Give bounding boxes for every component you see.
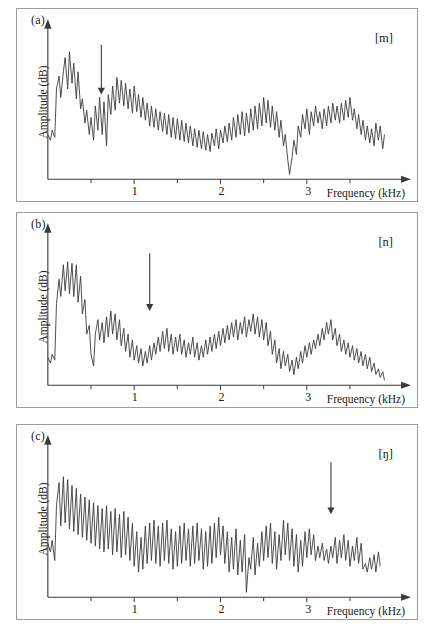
spectrum-plot-c [17,425,417,619]
spectrum-plot-a [17,9,417,201]
x-tick-label: 1 [132,184,138,199]
panel-label-a: (a) [31,13,45,28]
panel-a: (a) [m] Amplitude (dB) Frequency (kHz) 1… [16,8,418,202]
panel-b: (b) [n] Amplitude (dB) Frequency (kHz) 1… [16,212,418,408]
x-tick-label: 2 [219,602,225,617]
x-tick-label: 3 [305,184,311,199]
x-axis-label-b: Frequency (kHz) [327,393,405,405]
x-tick-label: 3 [305,602,311,617]
x-axis-label-a: Frequency (kHz) [327,187,405,199]
panel-label-b: (b) [31,217,46,232]
figure-root: (a) [m] Amplitude (dB) Frequency (kHz) 1… [0,0,434,631]
panel-c: (c) [ŋ] Amplitude (dB) Frequency (kHz) 1… [16,424,418,620]
x-axis-label-c: Frequency (kHz) [327,605,405,617]
x-tick-label: 1 [132,390,138,405]
phoneme-label-c: [ŋ] [378,447,393,462]
y-axis-label-b: Amplitude (dB) [37,247,49,367]
phoneme-label-b: [n] [378,235,393,250]
spectrum-plot-b [17,213,417,407]
panel-label-c: (c) [31,429,45,444]
y-axis-label-a: Amplitude (dB) [37,42,49,162]
phoneme-label-a: [m] [375,31,393,46]
x-tick-label: 2 [219,390,225,405]
y-axis-label-c: Amplitude (dB) [37,459,49,579]
x-tick-label: 3 [305,390,311,405]
x-tick-label: 1 [132,602,138,617]
x-tick-label: 2 [219,184,225,199]
